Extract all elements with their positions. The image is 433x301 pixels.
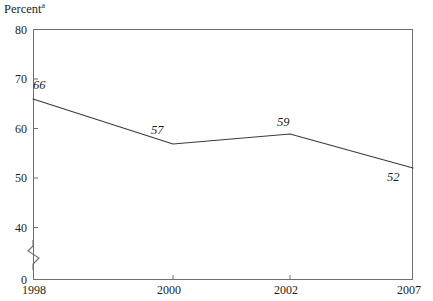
chart-vector-overlay <box>0 0 433 301</box>
axis-break-zigzag-path <box>28 240 39 270</box>
data-series-line <box>33 99 413 168</box>
y-axis-break-symbol <box>28 240 39 270</box>
x-axis-ticks <box>173 275 290 280</box>
y-axis-ticks <box>33 30 38 228</box>
line-chart: Percenta 80 70 60 50 40 0 1998 2000 2002… <box>0 0 433 301</box>
